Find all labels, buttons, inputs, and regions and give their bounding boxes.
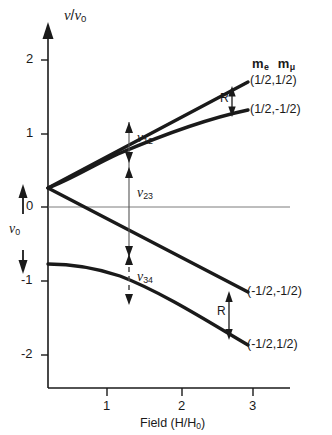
- nu34-arrow-head-up: [125, 254, 133, 265]
- x-axis-title: Field (H/H0): [140, 417, 205, 430]
- branch-label-4: (-1/2,1/2): [247, 338, 298, 351]
- branch-label-2: (1/2,-1/2): [250, 103, 301, 116]
- y-tick-label-0: 0: [26, 199, 33, 212]
- nu0-splitting-label: ν0: [9, 222, 20, 237]
- branch-2-upper-minus: [48, 110, 248, 188]
- r-splitting-arrows: [225, 86, 235, 340]
- r-lower-head-up: [225, 291, 232, 302]
- nu12-arrow-head-down: [125, 152, 133, 163]
- y-axis-arrowhead: [43, 22, 54, 39]
- nu0-arrow-head-up: [19, 184, 28, 198]
- r-label-lower: R: [217, 305, 226, 317]
- transition-label-nu12: ν12: [137, 131, 153, 146]
- nu12-arrow-head-up: [125, 122, 133, 133]
- x-ticks: [107, 388, 253, 396]
- y-ticks: [41, 60, 48, 355]
- nu34-arrow-head-down: [125, 294, 133, 305]
- x-tick-label-1: 1: [103, 399, 110, 412]
- x-tick-label-2: 2: [178, 399, 185, 412]
- y-tick-label-neg1: -1: [21, 273, 33, 286]
- x-tick-label-3: 3: [249, 399, 256, 412]
- breit-rabi-figure: ν/ν0 2 1 0 -1 -2 1 2 3 Field (H/H0) ν0 m…: [0, 0, 332, 435]
- y-tick-label-neg2: -2: [21, 347, 33, 360]
- branch-label-1: (1/2,1/2): [250, 74, 297, 87]
- nu23-arrow-head-up: [125, 167, 133, 178]
- y-tick-label-2: 2: [26, 52, 33, 65]
- branch-label-3: (-1/2,-1/2): [247, 285, 302, 298]
- transition-label-nu34: ν34: [137, 270, 153, 285]
- quantum-numbers-header: me mμ: [252, 57, 296, 72]
- y-axis-title: ν/ν0: [64, 8, 86, 24]
- transition-label-nu23: ν23: [137, 186, 153, 201]
- r-label-upper: R: [220, 92, 229, 104]
- y-tick-label-1: 1: [26, 126, 33, 139]
